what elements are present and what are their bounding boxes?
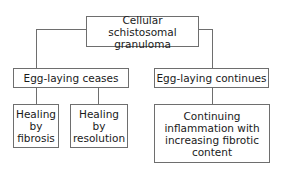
node-resolution-line-2: by [73,120,125,132]
node-continuing-line-2: inflammation with [164,122,259,134]
node-continuing-line-1: Continuing [164,110,259,122]
connector-root-to-continues [212,29,213,68]
node-root-line-2: granuloma [87,38,198,50]
connector-ceases-to-fibrosis [36,87,37,104]
node-root-line-1: Cellular schistosomal [87,14,198,38]
node-healing-by-resolution: Healing by resolution [70,104,128,148]
connector-ceases-to-resolution [98,87,99,104]
node-continuing-inflammation: Continuing inflammation with increasing … [154,104,270,163]
connector-continues-to-inflammation [212,87,213,104]
node-root: Cellular schistosomal granuloma [86,16,199,47]
node-egg-laying-continues: Egg-laying continues [154,68,269,88]
node-continuing-line-4: content [164,146,259,158]
node-resolution-line-1: Healing [73,108,125,120]
node-fibrosis-line-1: Healing [16,108,56,120]
connector-root-to-ceases [36,29,37,68]
node-egg-laying-continues-label: Egg-laying continues [156,72,266,84]
node-egg-laying-ceases: Egg-laying ceases [13,68,129,88]
node-continuing-line-3: increasing fibrotic [164,134,259,146]
node-fibrosis-line-2: by [16,120,56,132]
node-healing-by-fibrosis: Healing by fibrosis [13,104,59,148]
node-fibrosis-line-3: fibrosis [16,132,56,144]
node-resolution-line-3: resolution [73,132,125,144]
node-egg-laying-ceases-label: Egg-laying ceases [24,72,119,84]
